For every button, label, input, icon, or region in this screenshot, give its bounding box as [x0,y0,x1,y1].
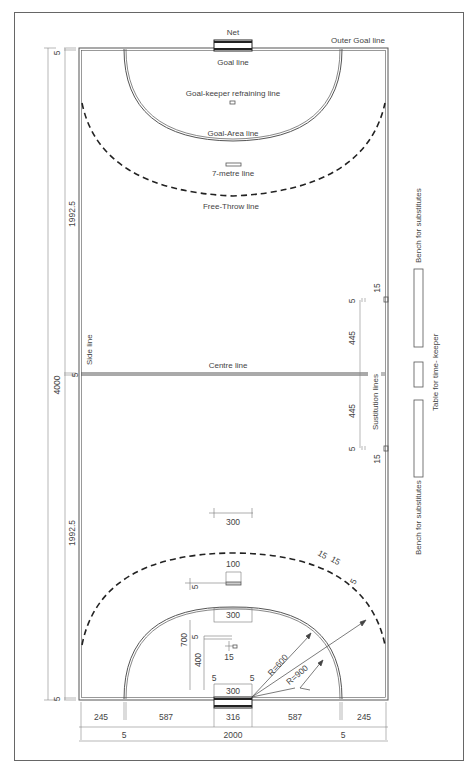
side-line-label: Side line [85,334,94,365]
substitution-marks [382,297,388,451]
timekeeper-table [414,362,423,387]
goal-net-top [214,40,252,51]
centre-line [81,373,368,375]
goalkeeper-mark-bottom [233,645,237,648]
dim-post-left: 5 [212,673,217,683]
dim-post-right: 5 [250,673,255,683]
goal-area-dimension-lines [185,508,253,697]
dim-dash-a: 15 [316,548,329,562]
goalkeeper-line-label: Goal-keeper refraining line [186,89,281,98]
centre-line-label: Centre line [209,361,248,370]
dim-half-top: 1992.5 [67,201,77,227]
dim-half-bottom: 1992.5 [67,520,77,546]
dim-radius-9m: R=900 [284,663,310,687]
dim-total-width: 2000 [224,730,243,740]
free-throw-line-top [82,103,385,196]
substitution-dimension [360,298,365,450]
dim-goal-area-flat: 300 [226,610,240,620]
free-throw-line-label: Free-Throw line [203,202,260,211]
dim-sub-bottom-len: 445 [347,404,357,418]
dim-total-right-line: 5 [341,730,346,740]
goal-area-line-label: Goal-Area line [207,129,259,138]
bench-bottom [414,400,423,477]
outer-frame [15,13,464,761]
dim-sub-top-gap: 5 [347,298,357,303]
bench-bottom-label: Bench for substitutes [414,480,423,555]
dim-goal-width: 300 [226,686,240,696]
dim-dash-b: 15 [329,554,342,568]
dim-sub-mark-top: 15 [372,283,382,293]
dim-sub-top-len: 445 [347,331,357,345]
dim-bottom-right-arc: 587 [288,712,302,722]
dim-sub-mark-bottom: 15 [372,454,382,464]
dim-bottom-goal: 316 [226,712,240,722]
handball-court-diagram: Net Outer Goal line Goal line Goal-keepe… [0,0,472,768]
goalkeeper-mark-top [230,101,235,104]
seven-metre-mark-top [226,163,241,166]
dim-bottom-line: 5 [52,696,62,701]
dim-sub-bottom-gap: 5 [347,446,357,451]
dim-total-length: 4000 [52,375,62,394]
dim-bottom-right-corner: 245 [357,712,371,722]
goal-line-label: Goal line [217,58,249,67]
seven-metre-mark-bottom [226,582,241,585]
dim-free-throw-mark: 300 [226,517,240,527]
dim-seven-metre-thickness: 5 [190,584,200,589]
radius-arrows [252,620,366,697]
dim-goal-distance: 700 [179,633,189,647]
bench-top [414,269,423,347]
dim-goal-line-thickness: 5 [190,634,200,639]
substitution-lines-label: Sustitution lines [371,374,380,430]
dim-top-line: 5 [52,50,62,55]
bench-top-label: Bench for substitutes [414,188,423,263]
dim-goalkeeper-distance: 400 [193,653,203,667]
timekeeper-table-label: Table for time- keeper [431,333,440,411]
goal-net-bottom [214,697,252,708]
net-label: Net [227,28,240,37]
court-boundary [79,48,388,700]
outer-goal-line-label: Outer Goal line [331,36,385,45]
dim-goalkeeper-mark: 15 [224,652,234,662]
dim-total-left-line: 5 [122,730,127,740]
dim-seven-metre-width: 100 [226,559,240,569]
dim-bottom-left-arc: 587 [159,712,173,722]
dim-bottom-left-corner: 245 [94,712,108,722]
dim-dash-thick: 5 [348,577,359,586]
seven-metre-line-label: 7-metre line [212,169,255,178]
dim-centre-line: 5 [70,372,80,377]
